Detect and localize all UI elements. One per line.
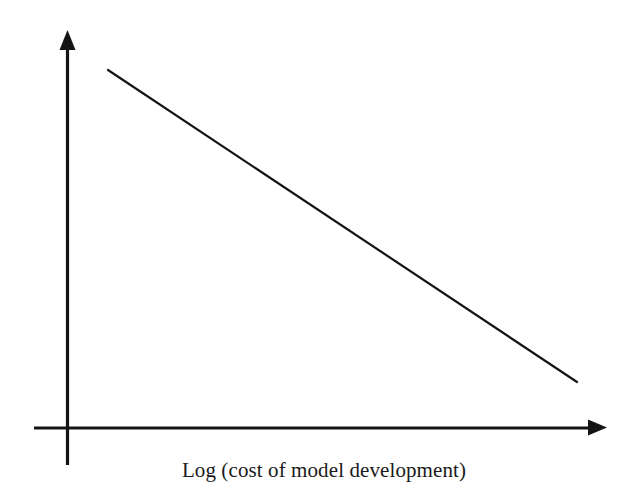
x-axis-label: Log (cost of model development) xyxy=(0,456,636,484)
y-axis-arrowhead-icon xyxy=(60,30,76,50)
data-line-downward-trend xyxy=(108,70,577,382)
figure-container: Log (cost of model development) xyxy=(0,0,636,498)
x-axis-arrowhead-icon xyxy=(588,420,607,436)
chart-canvas xyxy=(0,0,636,498)
